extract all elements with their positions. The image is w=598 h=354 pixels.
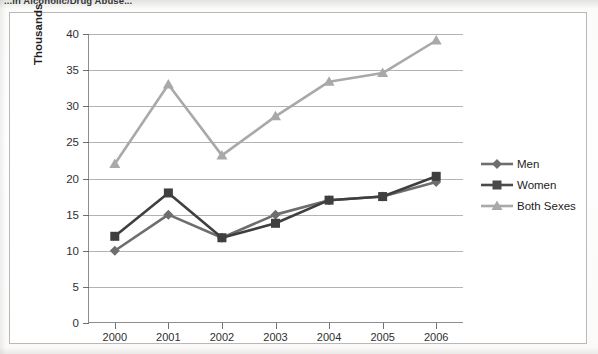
y-tick-label: 5: [73, 281, 79, 293]
scan-edge-bottom: [0, 347, 598, 354]
x-tick-label: 2006: [424, 331, 448, 343]
legend-item-women[interactable]: Women: [480, 174, 592, 195]
x-tick-label: 2000: [103, 331, 127, 343]
y-tick-label: 25: [66, 136, 79, 148]
legend-label: Men: [517, 158, 539, 170]
y-tick-label: 0: [73, 317, 79, 329]
x-tick-mark: [383, 323, 384, 329]
data-point-marker: [377, 68, 388, 78]
data-point-marker: [432, 172, 441, 181]
legend-item-both-sexes[interactable]: Both Sexes: [480, 195, 592, 216]
y-tick-mark: [83, 323, 89, 324]
data-point-marker: [217, 233, 226, 242]
diamond-marker-icon: [480, 157, 514, 171]
y-tick-label: 15: [66, 209, 79, 221]
series-line: [115, 176, 436, 237]
data-point-marker: [163, 79, 174, 89]
x-tick-label: 2003: [263, 331, 287, 343]
chart-frame: Thousands 0510152025303540 2000200120022…: [9, 12, 587, 344]
legend-label: Women: [517, 179, 556, 191]
data-point-marker: [270, 111, 281, 121]
y-tick-label: 35: [66, 64, 79, 76]
data-point-marker: [325, 196, 334, 205]
legend-label: Both Sexes: [517, 200, 576, 212]
y-tick-label: 30: [66, 100, 79, 112]
plot-area: 0510152025303540 20002001200220032004200…: [88, 34, 463, 323]
chart-title: ...in Alcoholic/Drug Abuse...: [4, 0, 334, 7]
y-tick-label: 10: [66, 245, 79, 257]
screenshot-root: ...in Alcoholic/Drug Abuse... Thousands …: [0, 0, 598, 354]
data-point-marker: [378, 192, 387, 201]
x-tick-mark: [168, 323, 169, 329]
series-women: [110, 172, 440, 242]
x-tick-label: 2001: [156, 331, 180, 343]
data-point-marker: [493, 180, 502, 189]
data-point-marker: [271, 219, 280, 228]
data-point-marker: [271, 210, 281, 220]
series-men: [110, 177, 441, 256]
x-tick-label: 2005: [370, 331, 394, 343]
data-point-marker: [492, 159, 502, 169]
x-tick-mark: [115, 323, 116, 329]
square-marker-icon: [480, 178, 514, 192]
x-tick-mark: [436, 323, 437, 329]
y-tick-label: 40: [66, 28, 79, 40]
x-tick-mark: [329, 323, 330, 329]
series-both-sexes: [109, 35, 441, 168]
series-line: [115, 41, 436, 165]
x-tick-label: 2004: [317, 331, 341, 343]
series-layer: [88, 34, 463, 323]
triangle-marker-icon: [480, 199, 514, 213]
y-tick-label: 20: [66, 173, 79, 185]
x-tick-mark: [276, 323, 277, 329]
data-point-marker: [164, 188, 173, 197]
y-axis-title: Thousands: [32, 4, 44, 65]
x-tick-label: 2002: [210, 331, 234, 343]
data-point-marker: [110, 232, 119, 241]
chart-legend: MenWomenBoth Sexes: [480, 153, 592, 216]
legend-item-men[interactable]: Men: [480, 153, 592, 174]
x-tick-mark: [222, 323, 223, 329]
data-point-marker: [431, 35, 442, 45]
scan-edge-left: [0, 0, 6, 354]
